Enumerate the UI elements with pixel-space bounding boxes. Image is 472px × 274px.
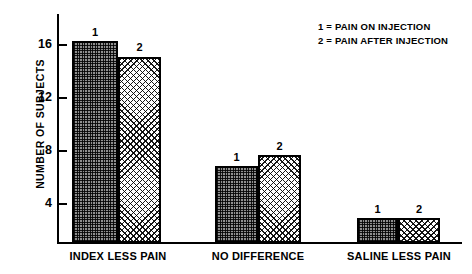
y-axis-title: NUMBER OF SUBJECTS [34, 24, 46, 224]
x-axis-category-label-3: SALINE LESS PAIN [335, 250, 463, 262]
x-axis-category-label-1: INDEX LESS PAIN [54, 250, 182, 262]
bar-saline-less-pain-series2 [398, 218, 440, 243]
bar-value-label-no-difference-series1: 1 [215, 152, 258, 163]
bar-value-label-index-less-pain-series1: 1 [72, 27, 118, 38]
y-tick-label-16: 16 [12, 38, 52, 51]
y-tick-mark-8 [58, 150, 67, 152]
legend-row-2: 2 = PAIN AFTER INJECTION [318, 34, 448, 48]
y-axis-line [57, 14, 59, 244]
bar-no-difference-series2 [258, 155, 301, 243]
y-tick-mark-12 [58, 97, 67, 99]
y-tick-label-12: 12 [12, 91, 52, 104]
legend: 1 = PAIN ON INJECTION 2 = PAIN AFTER INJ… [318, 20, 448, 48]
legend-row-1: 1 = PAIN ON INJECTION [318, 20, 448, 34]
y-tick-label-4: 4 [12, 197, 52, 210]
bar-index-less-pain-series2 [118, 57, 161, 243]
bar-saline-less-pain-series1 [357, 218, 398, 243]
x-axis-category-label-2: NO DIFFERENCE [194, 250, 322, 262]
y-tick-mark-16 [58, 44, 67, 46]
bar-chart: NUMBER OF SUBJECTS 16 12 8 4 1 2 INDEX L… [0, 0, 472, 274]
bar-no-difference-series1 [215, 166, 258, 243]
bar-value-label-index-less-pain-series2: 2 [118, 42, 161, 53]
bar-value-label-no-difference-series2: 2 [258, 141, 301, 152]
y-tick-mark-4 [58, 203, 67, 205]
bar-index-less-pain-series1 [72, 41, 118, 243]
bar-value-label-saline-less-pain-series1: 1 [357, 204, 398, 215]
y-tick-label-8: 8 [12, 144, 52, 157]
bar-value-label-saline-less-pain-series2: 2 [398, 204, 440, 215]
